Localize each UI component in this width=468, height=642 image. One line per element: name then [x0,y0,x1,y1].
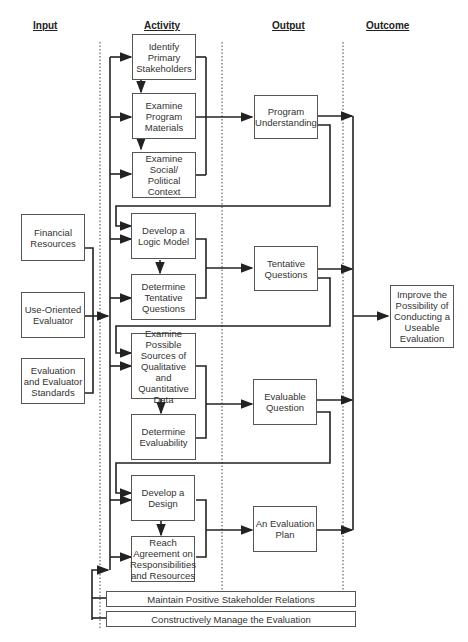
activity-develop-design: Develop a Design [131,475,195,521]
outcome-useable-evaluation: Improve the Possibility of Conducting a … [390,285,454,348]
input-evaluation-standards: Evaluation and Evaluator Standards [21,358,85,404]
header-input: Input [33,20,57,31]
activity-examine-data-sources: Examine Possible Sources of Qualitative … [131,333,196,399]
input-financial-resources: Financial Resources [21,214,85,261]
header-outcome: Outcome [366,20,409,31]
header-activity: Activity [144,20,180,31]
input-use-oriented-evaluator: Use-Oriented Evaluator [21,292,85,338]
activity-reach-agreement: Reach Agreement on Responsibilities and … [131,536,195,582]
activity-examine-program-materials: Examine Program Materials [132,93,196,139]
output-program-understanding: Program Understanding [254,95,318,139]
header-output: Output [272,20,305,31]
activity-determine-evaluability: Determine Evaluability [131,414,196,460]
activity-develop-logic-model: Develop a Logic Model [131,213,196,259]
output-evaluation-plan: An Evaluation Plan [253,506,317,552]
activity-identify-stakeholders: Identify Primary Stakeholders [132,34,196,80]
activity-determine-tentative-questions: Determine Tentative Questions [131,274,196,320]
output-evaluable-question: Evaluable Question [253,379,317,425]
bar-maintain-stakeholder-relations: Maintain Positive Stakeholder Relations [106,591,356,607]
activity-examine-social-political-context: Examine Social/ Political Context [132,152,196,198]
output-tentative-questions: Tentative Questions [254,246,318,291]
bar-manage-evaluation: Constructively Manage the Evaluation [106,611,356,627]
